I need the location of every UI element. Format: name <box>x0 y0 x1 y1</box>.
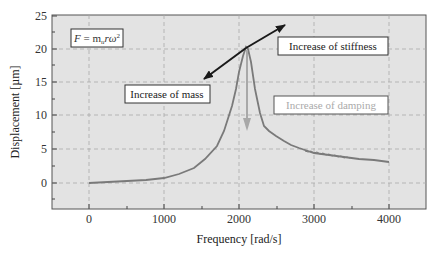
damping-label: Increase of damping <box>286 99 376 111</box>
ytick-label: 25 <box>35 9 47 23</box>
ytick-label: 10 <box>35 108 47 122</box>
xtick-label: 3000 <box>302 212 326 226</box>
chart: 25 20 15 10 5 0 0 1000 2000 3000 4000 Fr… <box>0 0 440 253</box>
ytick-label: 0 <box>41 176 47 190</box>
formula-text: F = murω2 <box>73 32 121 46</box>
stiffness-label: Increase of stiffness <box>289 40 377 52</box>
ytick-label: 15 <box>35 75 47 89</box>
ytick-label: 5 <box>41 142 47 156</box>
mass-label: Increase of mass <box>130 88 203 100</box>
xtick-label: 0 <box>86 212 92 226</box>
xtick-label: 1000 <box>152 212 176 226</box>
xtick-label: 2000 <box>227 212 251 226</box>
ytick-label: 20 <box>35 42 47 56</box>
x-axis-label: Frequency [rad/s] <box>197 232 282 246</box>
xtick-label: 4000 <box>377 212 401 226</box>
y-axis-label: Displacement [µm] <box>8 65 22 158</box>
